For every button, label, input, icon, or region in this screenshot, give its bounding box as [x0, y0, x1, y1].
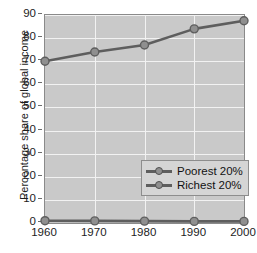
- legend-label-poorest: Poorest 20%: [177, 165, 243, 178]
- x-tick-label: 2000: [218, 226, 257, 239]
- data-point-marker: [41, 217, 49, 225]
- data-point-marker: [141, 41, 149, 49]
- chart-figure: Percentage share of global income 010203…: [0, 0, 257, 253]
- x-tick-label: 1990: [168, 226, 218, 239]
- legend-marker-poorest-icon: [146, 165, 172, 177]
- data-point-marker: [190, 25, 198, 33]
- x-tick-label: 1970: [69, 226, 119, 239]
- data-point-marker: [91, 217, 99, 225]
- data-point-marker: [240, 17, 248, 25]
- data-point-marker: [91, 48, 99, 56]
- x-tick-label: 1980: [119, 226, 169, 239]
- legend-item-poorest: Poorest 20%: [146, 164, 243, 178]
- x-tick-label: 1960: [19, 226, 69, 239]
- data-point-marker: [190, 217, 198, 225]
- data-point-marker: [141, 217, 149, 225]
- data-point-marker: [41, 57, 49, 65]
- legend-item-richest: Richest 20%: [146, 178, 243, 192]
- legend-marker-richest-icon: [146, 179, 172, 191]
- plot-area: Poorest 20% Richest 20%: [44, 14, 245, 224]
- legend-label-richest: Richest 20%: [177, 179, 242, 192]
- data-point-marker: [240, 217, 248, 225]
- chart-legend: Poorest 20% Richest 20%: [141, 160, 249, 196]
